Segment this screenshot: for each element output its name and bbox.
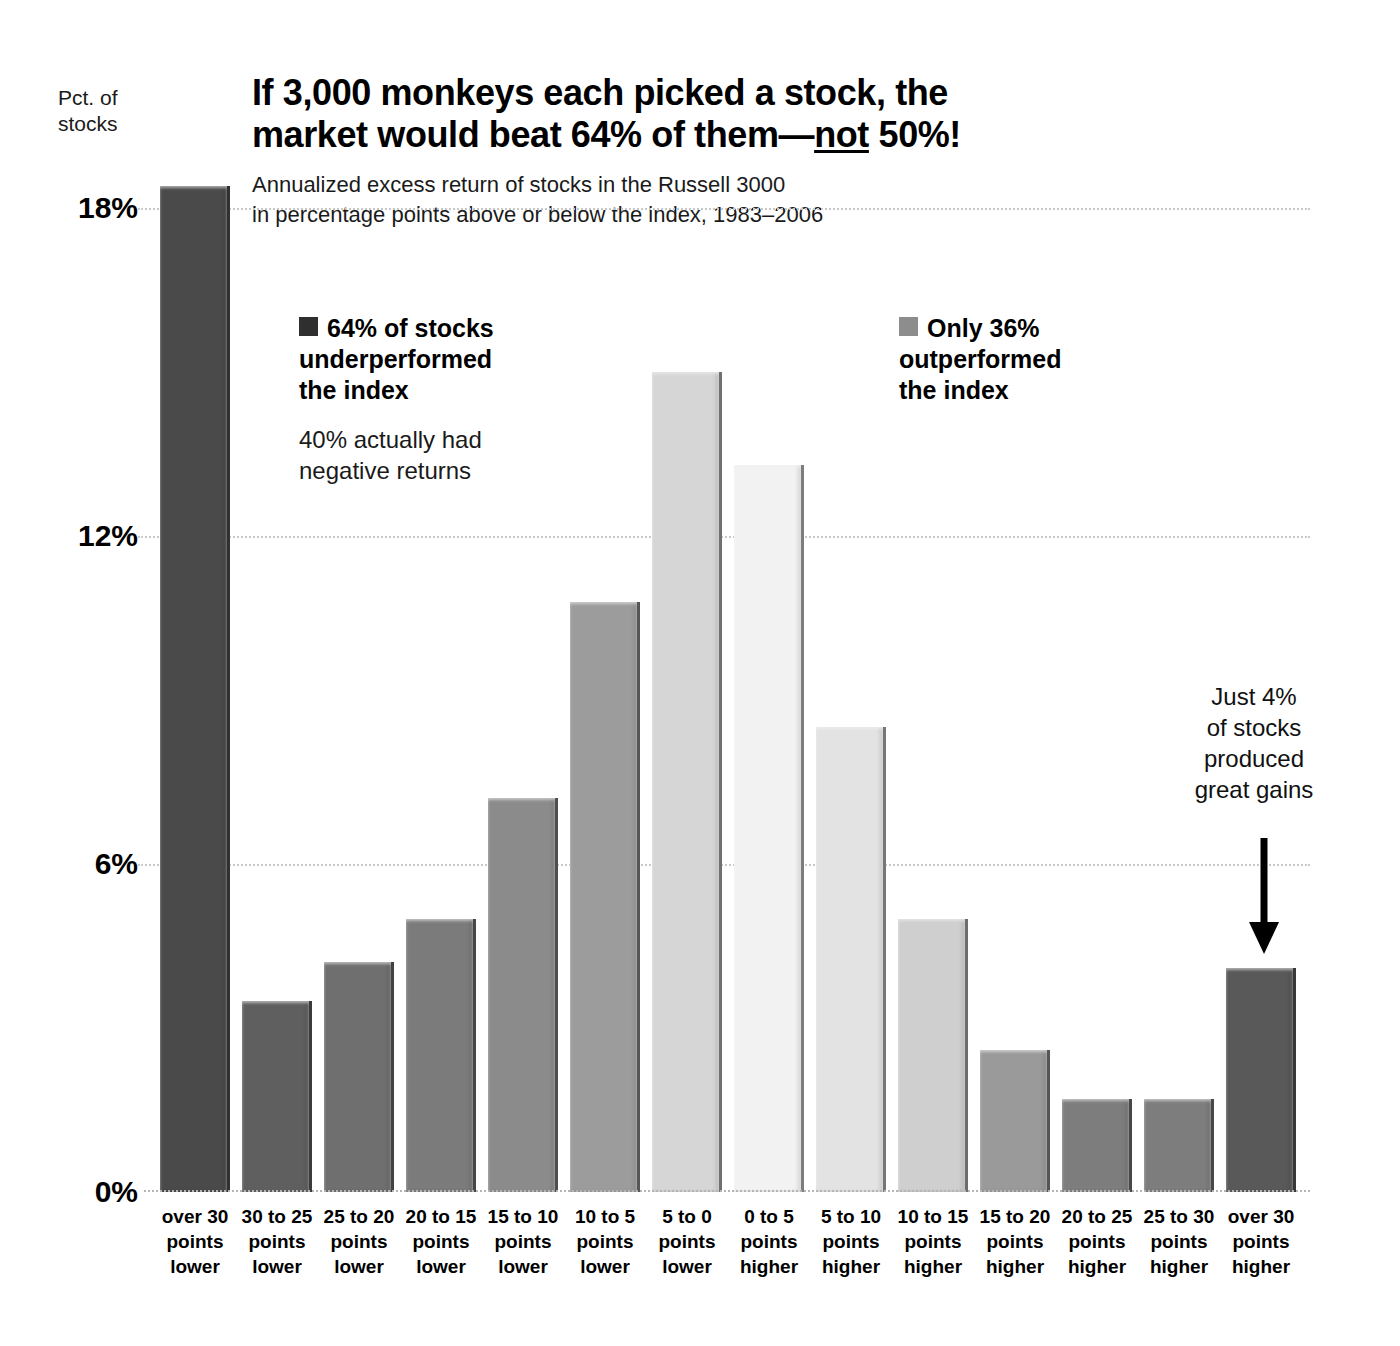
- x-axis-tick-label-line: lower: [155, 1254, 235, 1279]
- x-axis-tick-label-line: higher: [1057, 1254, 1137, 1279]
- bar[interactable]: [898, 919, 969, 1192]
- annotation-great-gains: Just 4% of stocks produced great gains: [1180, 681, 1328, 805]
- legend-underperformed-line3: the index: [299, 376, 409, 404]
- legend-outperformed-line3: the index: [899, 376, 1009, 404]
- bar-face: [1226, 968, 1297, 1192]
- bar[interactable]: [1144, 1099, 1215, 1192]
- x-axis-tick-label: over 30pointslower: [154, 1204, 236, 1279]
- x-axis-tick-label-line: higher: [811, 1254, 891, 1279]
- bar[interactable]: [652, 372, 723, 1192]
- bar-slot: [646, 208, 728, 1192]
- bar-slot: [810, 208, 892, 1192]
- bar-face: [488, 798, 559, 1192]
- axis-baseline: [144, 1190, 1310, 1192]
- bar-face: [898, 919, 969, 1192]
- x-axis-tick-label-line: points: [483, 1229, 563, 1254]
- x-axis-tick-label-line: higher: [1139, 1254, 1219, 1279]
- x-axis-tick-label: 20 to 25pointshigher: [1056, 1204, 1138, 1279]
- x-axis-tick-label-line: 30 to 25: [237, 1204, 317, 1229]
- x-axis-tick-label-line: 20 to 15: [401, 1204, 481, 1229]
- legend-outperformed-line2: outperformed: [899, 345, 1062, 373]
- y-axis-caption: Pct. of stocks: [58, 85, 154, 137]
- legend-outperformed: Only 36% outperformed the index: [899, 313, 1179, 406]
- x-axis-tick-label-line: lower: [401, 1254, 481, 1279]
- x-axis-tick-label: 5 to 0pointslower: [646, 1204, 728, 1279]
- bar[interactable]: [488, 798, 559, 1192]
- bar-face: [324, 962, 395, 1192]
- bar-slot: [154, 208, 236, 1192]
- x-axis-tick-label-line: lower: [565, 1254, 645, 1279]
- bar[interactable]: [734, 465, 805, 1192]
- bar-face: [1144, 1099, 1215, 1192]
- legend-outperformed-line1: Only 36%: [927, 314, 1040, 342]
- x-axis-tick-label: 10 to 15pointshigher: [892, 1204, 974, 1279]
- x-axis-tick-label: over 30pointshigher: [1220, 1204, 1302, 1279]
- x-axis-tick-labels: over 30pointslower30 to 25pointslower25 …: [154, 1204, 1302, 1279]
- title-block: If 3,000 monkeys each picked a stock, th…: [252, 72, 1132, 230]
- bar-face: [816, 727, 887, 1192]
- chart-title-line2-a: market would beat 64% of them—: [252, 114, 814, 155]
- bar[interactable]: [570, 602, 641, 1192]
- bar-face: [160, 186, 231, 1192]
- x-axis-tick-label-line: 15 to 10: [483, 1204, 563, 1229]
- bar[interactable]: [160, 186, 231, 1192]
- bar-slot: [728, 208, 810, 1192]
- x-axis-tick-label-line: over 30: [155, 1204, 235, 1229]
- x-axis-tick-label: 0 to 5pointshigher: [728, 1204, 810, 1279]
- bar[interactable]: [406, 919, 477, 1192]
- x-axis-tick-label: 10 to 5pointslower: [564, 1204, 646, 1279]
- x-axis-tick-label: 15 to 10pointslower: [482, 1204, 564, 1279]
- bar[interactable]: [324, 962, 395, 1192]
- legend-negative-returns-line1: 40% actually had: [299, 424, 599, 455]
- x-axis-tick-label: 20 to 15pointslower: [400, 1204, 482, 1279]
- bar[interactable]: [816, 727, 887, 1192]
- x-axis-tick-label-line: points: [729, 1229, 809, 1254]
- x-axis-tick-label-line: over 30: [1221, 1204, 1301, 1229]
- y-axis-tick-6: 6%: [46, 847, 138, 881]
- x-axis-tick-label-line: points: [401, 1229, 481, 1254]
- x-axis-tick-label: 25 to 20pointslower: [318, 1204, 400, 1279]
- x-axis-tick-label-line: 20 to 25: [1057, 1204, 1137, 1229]
- x-axis-tick-label-line: points: [975, 1229, 1055, 1254]
- x-axis-tick-label-line: points: [155, 1229, 235, 1254]
- annotation-line3: produced: [1180, 743, 1328, 774]
- x-axis-tick-label-line: points: [893, 1229, 973, 1254]
- x-axis-tick-label-line: points: [811, 1229, 891, 1254]
- x-axis-tick-label-line: lower: [319, 1254, 399, 1279]
- bar-face: [570, 602, 641, 1192]
- chart-title-line1: If 3,000 monkeys each picked a stock, th…: [252, 72, 948, 113]
- bar-face: [734, 465, 805, 1192]
- bar-face: [980, 1050, 1051, 1192]
- x-axis-tick-label-line: points: [1139, 1229, 1219, 1254]
- bar[interactable]: [1062, 1099, 1133, 1192]
- y-axis-tick-0: 0%: [46, 1175, 138, 1209]
- bar[interactable]: [980, 1050, 1051, 1192]
- legend-underperformed-line1: 64% of stocks: [327, 314, 494, 342]
- x-axis-tick-label: 30 to 25pointslower: [236, 1204, 318, 1279]
- x-axis-tick-label: 25 to 30pointshigher: [1138, 1204, 1220, 1279]
- bar[interactable]: [1226, 968, 1297, 1192]
- bar-face: [1062, 1099, 1133, 1192]
- x-axis-tick-label-line: 5 to 10: [811, 1204, 891, 1229]
- x-axis-tick-label: 15 to 20pointshigher: [974, 1204, 1056, 1279]
- x-axis-tick-label-line: 25 to 30: [1139, 1204, 1219, 1229]
- bar[interactable]: [242, 1001, 313, 1192]
- x-axis-tick-label-line: higher: [729, 1254, 809, 1279]
- chart-title-emphasis: not: [814, 114, 869, 155]
- x-axis-tick-label-line: lower: [237, 1254, 317, 1279]
- x-axis-tick-label-line: 10 to 15: [893, 1204, 973, 1229]
- x-axis-tick-label-line: higher: [1221, 1254, 1301, 1279]
- x-axis-tick-label-line: higher: [893, 1254, 973, 1279]
- page-title: If 3,000 monkeys each picked a stock, th…: [252, 72, 1132, 156]
- legend-negative-returns-note: 40% actually had negative returns: [299, 424, 599, 486]
- bar-face: [652, 372, 723, 1192]
- y-axis-caption-line1: Pct. of: [58, 85, 154, 111]
- annotation-line1: Just 4%: [1180, 681, 1328, 712]
- x-axis-tick-label-line: points: [647, 1229, 727, 1254]
- x-axis-tick-label-line: 25 to 20: [319, 1204, 399, 1229]
- x-axis-tick-label-line: points: [319, 1229, 399, 1254]
- annotation-line4: great gains: [1180, 774, 1328, 805]
- x-axis-tick-label-line: points: [1221, 1229, 1301, 1254]
- x-axis-tick-label-line: 5 to 0: [647, 1204, 727, 1229]
- x-axis-tick-label-line: higher: [975, 1254, 1055, 1279]
